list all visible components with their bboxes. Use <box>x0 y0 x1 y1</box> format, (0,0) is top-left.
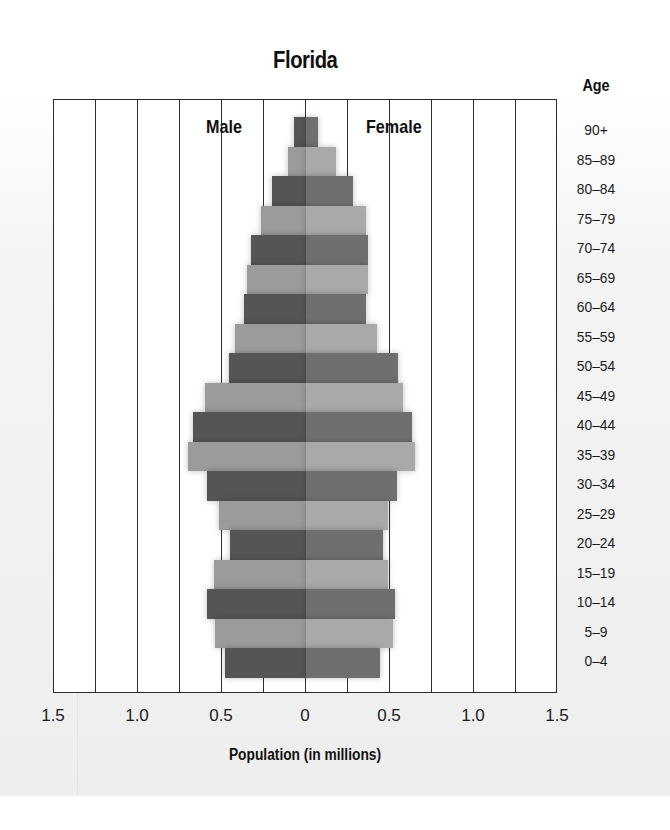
age-label: 60–64 <box>568 298 623 315</box>
female-bar <box>306 324 377 354</box>
male-bar <box>230 530 306 560</box>
age-label: 0–4 <box>568 652 623 669</box>
age-label: 70–74 <box>568 239 623 256</box>
male-bar <box>251 235 306 265</box>
female-bar <box>306 117 318 147</box>
x-tick-label: 0.5 <box>364 706 414 726</box>
age-label: 45–49 <box>568 387 623 404</box>
female-bar <box>306 560 388 590</box>
female-bar <box>306 412 412 442</box>
x-tick-label: 1.5 <box>28 706 78 726</box>
female-bar <box>306 589 395 619</box>
female-bar <box>306 619 393 649</box>
age-label: 20–24 <box>568 534 623 551</box>
male-bar <box>272 176 306 206</box>
age-label: 10–14 <box>568 593 623 610</box>
male-bar <box>261 206 306 236</box>
female-bar <box>306 501 388 531</box>
age-label: 65–69 <box>568 269 623 286</box>
male-bar <box>219 501 306 531</box>
age-label: 5–9 <box>568 623 623 640</box>
male-bar <box>193 412 306 442</box>
x-tick-label: 1.5 <box>532 706 582 726</box>
female-bar <box>306 442 415 472</box>
age-label: 15–19 <box>568 564 623 581</box>
age-label: 75–79 <box>568 210 623 227</box>
male-bar <box>207 471 306 501</box>
age-label: 50–54 <box>568 357 623 374</box>
gridline <box>473 100 474 692</box>
age-label: 30–34 <box>568 475 623 492</box>
male-bar <box>235 324 306 354</box>
x-tick-label: 0.5 <box>196 706 246 726</box>
female-bar <box>306 147 336 177</box>
plot-area: Male Female <box>53 99 557 693</box>
female-label: Female <box>366 116 422 138</box>
male-bar <box>188 442 306 472</box>
male-bar <box>205 383 306 413</box>
gridline <box>179 100 180 692</box>
male-bar <box>215 619 306 649</box>
female-bar <box>306 176 353 206</box>
age-label: 55–59 <box>568 328 623 345</box>
age-label: 40–44 <box>568 416 623 433</box>
female-bar <box>306 294 366 324</box>
male-bar <box>244 294 306 324</box>
gridline <box>515 100 516 692</box>
age-label: 80–84 <box>568 180 623 197</box>
male-bar <box>207 589 306 619</box>
female-bar <box>306 383 403 413</box>
female-bar <box>306 265 368 295</box>
x-tick-label: 1.0 <box>448 706 498 726</box>
male-bar <box>288 147 306 177</box>
age-label: 90+ <box>568 121 623 138</box>
male-bar <box>225 648 306 678</box>
male-label: Male <box>206 116 242 138</box>
x-tick-label: 1.0 <box>112 706 162 726</box>
female-bar <box>306 206 366 236</box>
female-bar <box>306 471 397 501</box>
age-label: 35–39 <box>568 446 623 463</box>
age-label: 85–89 <box>568 151 623 168</box>
male-bar <box>294 117 306 147</box>
female-bar <box>306 648 380 678</box>
female-bar <box>306 353 398 383</box>
x-axis-title: Population (in millions) <box>43 746 568 764</box>
gridline <box>95 100 96 692</box>
y-axis-title: Age <box>569 77 623 95</box>
male-bar <box>214 560 306 590</box>
gridline <box>137 100 138 692</box>
age-label: 25–29 <box>568 505 623 522</box>
male-bar <box>229 353 306 383</box>
x-tick-label: 0 <box>280 706 330 726</box>
female-bar <box>306 235 368 265</box>
female-bar <box>306 530 383 560</box>
chart-title: Florida <box>37 47 574 74</box>
gridline <box>431 100 432 692</box>
male-bar <box>247 265 306 295</box>
